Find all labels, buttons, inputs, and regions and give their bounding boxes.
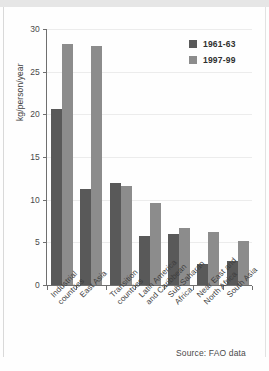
y-tick-label: 30 bbox=[18, 24, 40, 34]
bar-group bbox=[76, 29, 105, 285]
y-tick-label: 5 bbox=[18, 237, 40, 247]
bar-group bbox=[106, 29, 135, 285]
bar[interactable] bbox=[80, 189, 91, 285]
y-axis-line bbox=[46, 29, 47, 286]
y-tick-label: 25 bbox=[18, 67, 40, 77]
x-tick-mark bbox=[47, 286, 48, 290]
y-tick-label: 20 bbox=[18, 109, 40, 119]
legend-item[interactable]: 1961-63 bbox=[189, 37, 236, 50]
bar-group bbox=[47, 29, 76, 285]
page-right-rule bbox=[265, 7, 266, 357]
y-tick-label: 15 bbox=[18, 152, 40, 162]
legend-label: 1997-99 bbox=[203, 55, 236, 65]
bar[interactable] bbox=[110, 183, 121, 285]
legend-swatch-1961-63 bbox=[189, 40, 197, 48]
bar[interactable] bbox=[51, 109, 62, 285]
chart-figure: kg/person/year 051015202530 Industrial c… bbox=[0, 0, 269, 371]
bar[interactable] bbox=[62, 44, 73, 285]
legend-label: 1961-63 bbox=[203, 39, 236, 49]
bar[interactable] bbox=[91, 46, 102, 285]
legend-item[interactable]: 1997-99 bbox=[189, 53, 236, 66]
page-top-band bbox=[0, 0, 269, 7]
x-tick-mark bbox=[252, 286, 253, 290]
x-tick-mark bbox=[106, 286, 107, 290]
legend-swatch-1997-99 bbox=[189, 56, 197, 64]
y-tick-label: 10 bbox=[18, 195, 40, 205]
source-note: Source: FAO data bbox=[176, 348, 246, 358]
bar-group bbox=[135, 29, 164, 285]
y-tick-label: 0 bbox=[18, 280, 40, 290]
page-left-rule bbox=[3, 7, 4, 357]
chart-legend: 1961-63 1997-99 bbox=[189, 37, 236, 69]
